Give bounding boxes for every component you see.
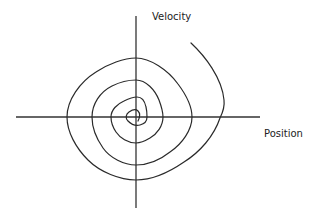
velocity-axis-label: Velocity [152,11,191,22]
position-axis-label: Position [264,128,303,139]
spiral-trajectory [67,43,224,180]
phase-diagram [0,0,318,220]
